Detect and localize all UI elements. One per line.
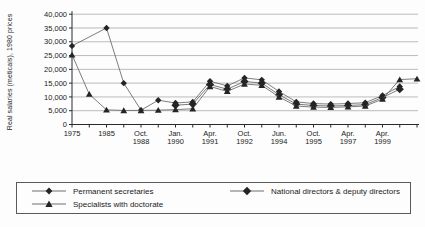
diamond-small-marker-icon [31,186,67,196]
svg-text:Oct.1988: Oct.1988 [133,129,150,147]
svg-text:Apr.1997: Apr.1997 [340,129,357,147]
triangle-marker-icon [31,199,67,209]
svg-text:10,000: 10,000 [44,93,67,102]
svg-text:35,000: 35,000 [44,24,67,33]
svg-text:Apr.1999: Apr.1999 [374,129,391,147]
svg-text:15,000: 15,000 [44,79,67,88]
legend-label-permanent-secretaries: Permanent secretaries [73,187,153,196]
svg-text:5,000: 5,000 [48,106,67,115]
svg-text:Apr.1991: Apr.1991 [202,129,219,147]
legend-label-specialists-doctorate: Specialists with doctorate [73,200,163,209]
svg-text:Oct.1992: Oct.1992 [236,129,253,147]
svg-text:1975: 1975 [64,129,81,138]
svg-text:Jun.1994: Jun.1994 [271,129,288,147]
svg-text:1985: 1985 [98,129,115,138]
legend-item-permanent-secretaries: Permanent secretaries [31,185,153,197]
svg-text:20,000: 20,000 [44,65,67,74]
svg-text:Oct.1995: Oct.1995 [305,129,322,147]
diamond-large-marker-icon [229,186,265,196]
svg-text:30,000: 30,000 [44,37,67,46]
legend-item-specialists-doctorate: Specialists with doctorate [31,198,163,210]
svg-text:Jan.1990: Jan.1990 [167,129,184,147]
chart-legend: Permanent secretaries Specialists with d… [16,182,411,214]
legend-item-national-directors: National directors & deputy directors [229,185,400,197]
svg-text:40,000: 40,000 [44,10,67,19]
legend-label-national-directors: National directors & deputy directors [271,187,400,196]
salary-chart-figure: 05,00010,00015,00020,00025,00030,00035,0… [0,0,425,227]
y-axis-title: Real salaries (meticais), 1980 prices [6,14,13,131]
svg-text:25,000: 25,000 [44,51,67,60]
